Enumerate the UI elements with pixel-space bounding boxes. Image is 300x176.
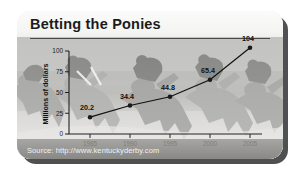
y-axis-title: Millions of dollars [41,63,50,124]
line-chart: 0 25 50 75 100 Millions of dollars 1985 [17,11,283,159]
data-point-marker [208,77,213,82]
data-point-marker [248,45,253,50]
chart-axes [69,51,262,134]
y-tick-label: 0 [59,130,63,137]
data-point-labels: 20.2 34.4 44.8 65.4 104 [80,34,254,113]
data-point-marker [88,115,93,120]
y-axis-ticks: 0 25 50 75 100 [52,47,69,137]
y-tick-label: 100 [52,47,63,54]
data-point-label: 65.4 [201,66,215,75]
data-point-marker [168,95,173,100]
data-point-label: 44.8 [161,83,175,92]
y-tick-label: 75 [56,68,64,75]
y-tick-label: 25 [56,110,64,117]
chart-svg: 0 25 50 75 100 Millions of dollars 1985 [17,11,283,159]
infographic-card: Betting the Ponies 0 25 50 75 100 [17,11,283,159]
source-citation: Source: http://www.kentuckyderby.com [27,146,159,155]
data-point-marker [128,103,133,108]
screenshot-root: Betting the Ponies 0 25 50 75 100 [0,0,300,176]
data-point-label: 104 [242,34,254,43]
y-tick-label: 50 [56,89,64,96]
data-point-label: 34.4 [120,92,134,101]
data-point-label: 20.2 [80,103,94,112]
